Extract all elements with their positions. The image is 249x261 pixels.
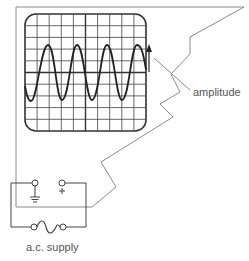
oscilloscope-screen (25, 14, 146, 131)
amplitude-leader-line (154, 58, 190, 90)
terminal-positive (59, 180, 65, 186)
ac-supply-label: a.c. supply (26, 241, 79, 253)
ac-source-icon (37, 221, 60, 233)
positive-icon (59, 188, 65, 194)
ground-icon (30, 197, 40, 202)
terminal-ground (32, 180, 38, 186)
oscilloscope-diagram (0, 0, 249, 261)
amplitude-label: amplitude (193, 86, 241, 98)
amplitude-arrow-icon (146, 44, 152, 72)
